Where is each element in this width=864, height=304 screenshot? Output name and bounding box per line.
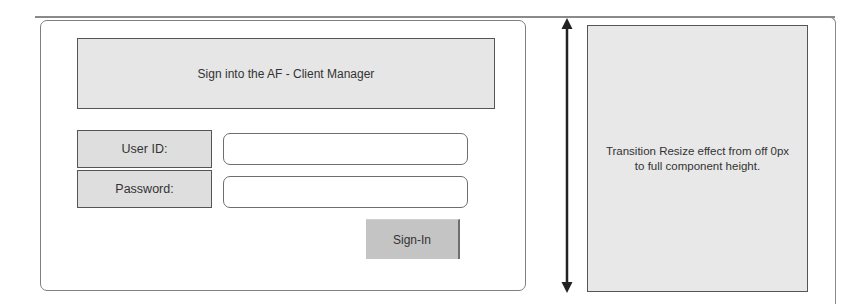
user-id-label-text: User ID: <box>122 142 168 156</box>
sign-in-label: Sign-In <box>393 233 431 247</box>
double-arrow-icon <box>558 18 576 293</box>
transition-description: Transition Resize effect from off 0px to… <box>600 144 795 174</box>
password-input[interactable] <box>223 176 468 208</box>
user-id-label: User ID: <box>77 130 212 168</box>
login-title: Sign into the AF - Client Manager <box>198 67 375 81</box>
sign-in-button[interactable]: Sign-In <box>366 219 460 259</box>
login-title-banner: Sign into the AF - Client Manager <box>77 38 495 109</box>
top-divider-line <box>35 16 835 18</box>
password-label: Password: <box>77 170 212 208</box>
user-id-input[interactable] <box>223 133 468 165</box>
transition-annotation-panel: Transition Resize effect from off 0px to… <box>587 25 808 292</box>
password-label-text: Password: <box>115 182 173 196</box>
